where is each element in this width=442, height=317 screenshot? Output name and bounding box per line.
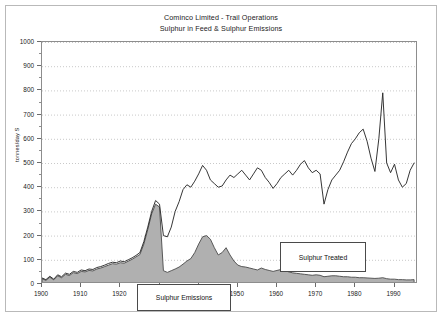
- y-tick-label: 300: [23, 207, 34, 214]
- x-tick-label: 1990: [386, 290, 400, 297]
- chart-title-line-2: Sulphur in Feed & Sulphur Emissions: [0, 23, 442, 34]
- y-tick-label: 0: [30, 280, 34, 287]
- chart-title-line-1: Cominco Limited - Trail Operations: [0, 12, 442, 23]
- annotation-sulphur-treated: Sulphur Treated: [280, 242, 366, 272]
- annotation-sulphur-emissions: Sulphur Emissions: [137, 284, 231, 311]
- x-tick-mark: [354, 283, 355, 287]
- annotation-emissions-text: Sulphur Emissions: [156, 294, 212, 301]
- annotation-treated-text: Sulphur Treated: [299, 254, 347, 261]
- x-tick-label: 1950: [230, 290, 244, 297]
- grid-lines: [42, 43, 417, 261]
- x-tick-label: 1980: [347, 290, 361, 297]
- y-tick-label: 700: [23, 110, 34, 117]
- x-tick-mark: [276, 283, 277, 287]
- y-tick-label: 800: [23, 86, 34, 93]
- x-tick-mark: [237, 283, 238, 287]
- x-tick-label: 1970: [308, 290, 322, 297]
- x-tick-mark: [119, 283, 120, 287]
- x-tick-label: 1960: [269, 290, 283, 297]
- y-axis: 01002003004005006007008009001000: [0, 41, 41, 283]
- chart-figure: Cominco Limited - Trail Operations Sulph…: [0, 0, 442, 317]
- plot-wrapper: Sulphur Emissions Sulphur Treated: [41, 41, 417, 283]
- y-tick-label: 500: [23, 159, 34, 166]
- y-tick-label: 100: [23, 255, 34, 262]
- x-tick-label: 1900: [34, 290, 48, 297]
- x-tick-mark: [394, 283, 395, 287]
- x-tick-mark: [315, 283, 316, 287]
- chart-title: Cominco Limited - Trail Operations Sulph…: [0, 12, 442, 34]
- y-tick-label: 200: [23, 231, 34, 238]
- x-tick-mark: [41, 283, 42, 287]
- x-tick-label: 1920: [112, 290, 126, 297]
- y-tick-label: 400: [23, 183, 34, 190]
- y-tick-label: 600: [23, 134, 34, 141]
- y-tick-label: 900: [23, 62, 34, 69]
- y-tick-label: 1000: [20, 38, 34, 45]
- x-tick-label: 1910: [73, 290, 87, 297]
- x-tick-mark: [80, 283, 81, 287]
